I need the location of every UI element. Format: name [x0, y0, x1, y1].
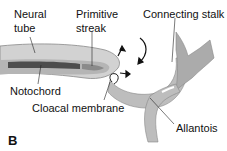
panel-label: B	[8, 133, 17, 148]
label-notochord: Notochord	[10, 85, 61, 97]
embryo-diagram: Neural tube Primitive streak Connecting …	[0, 0, 227, 151]
allantois-shape	[145, 84, 181, 142]
connecting-stalk-shape	[176, 32, 214, 90]
label-cloacal-membrane: Cloacal membrane	[32, 102, 124, 114]
movement-arrows	[118, 38, 146, 77]
label-connecting-stalk: Connecting stalk	[143, 8, 224, 20]
label-primitive-streak-line2: streak	[76, 22, 106, 34]
label-primitive-streak-line1: Primitive	[76, 8, 118, 20]
label-neural-tube-line2: tube	[14, 22, 35, 34]
label-neural-tube-line1: Neural	[14, 8, 46, 20]
label-allantois: Allantois	[176, 122, 218, 134]
